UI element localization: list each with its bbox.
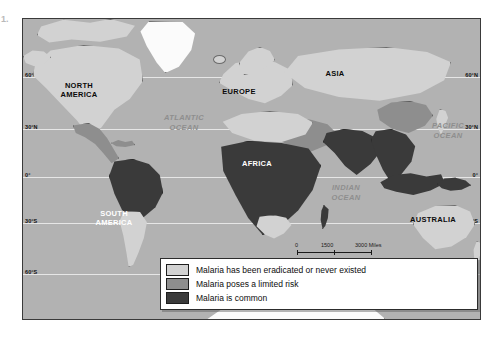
continent-label-asia: ASIA xyxy=(315,69,355,78)
legend-label-common: Malaria is common xyxy=(196,293,267,303)
lat-label-60s-left: 60°S xyxy=(25,269,37,275)
scale-tick-start xyxy=(297,250,298,255)
scale-miles-tick-3000: 3000 Miles xyxy=(355,242,382,248)
ocean-label-pacific: PACIFIC OCEAN xyxy=(419,121,477,141)
legend-swatch-limited-risk xyxy=(166,278,189,290)
figure-container: 1. 60°N 30°N 0° 30°S 60°S 60°N 30°N 0° 3… xyxy=(0,0,501,344)
landmass-iceland xyxy=(213,55,226,64)
ocean-label-indian-line2: OCEAN xyxy=(319,193,373,203)
legend-item-limited-risk: Malaria poses a limited risk xyxy=(166,277,472,291)
continent-label-north-america: NORTH AMERICA xyxy=(41,81,117,99)
scale-tick-end xyxy=(371,250,372,255)
scale-miles-tick-0: 0 xyxy=(295,242,298,248)
continent-label-south-america: SOUTH AMERICA xyxy=(81,209,147,227)
continent-label-australia: AUSTRALIA xyxy=(401,215,465,224)
legend-swatch-eradicated xyxy=(166,264,189,276)
continent-label-south-america-line1: SOUTH xyxy=(81,209,147,218)
continent-label-north-america-line1: NORTH xyxy=(41,81,117,90)
continent-label-south-america-line2: AMERICA xyxy=(81,218,147,227)
continent-label-africa: AFRICA xyxy=(231,159,283,168)
legend-label-eradicated: Malaria has been eradicated or never exi… xyxy=(196,265,366,275)
scale-tick-mid xyxy=(334,250,335,255)
scale-bar-miles-labels: 0 1500 3000 Miles xyxy=(291,241,391,252)
lat-label-0-left: 0° xyxy=(25,172,30,178)
scale-miles-tick-1500: 1500 xyxy=(321,242,333,248)
lat-label-60n-right: 60°N xyxy=(465,72,478,78)
map-legend: Malaria has been eradicated or never exi… xyxy=(160,258,478,310)
ocean-label-atlantic: ATLANTIC OCEAN xyxy=(151,113,217,133)
ocean-label-pacific-line1: PACIFIC xyxy=(419,121,477,131)
lat-label-30s-left: 30°S xyxy=(25,218,37,224)
lat-label-30n-left: 30°N xyxy=(25,124,38,130)
continent-label-europe: EUROPE xyxy=(213,87,265,96)
legend-label-limited-risk: Malaria poses a limited risk xyxy=(196,279,299,289)
figure-number: 1. xyxy=(1,14,9,24)
continent-label-north-america-line2: AMERICA xyxy=(41,90,117,99)
ocean-label-pacific-line2: OCEAN xyxy=(419,131,477,141)
legend-item-eradicated: Malaria has been eradicated or never exi… xyxy=(166,263,472,277)
lat-label-0-right: 0° xyxy=(473,172,478,178)
ocean-label-atlantic-line2: OCEAN xyxy=(151,123,217,133)
ocean-label-atlantic-line1: ATLANTIC xyxy=(151,113,217,123)
legend-item-common: Malaria is common xyxy=(166,291,472,305)
ocean-label-indian-line1: INDIAN xyxy=(319,183,373,193)
ocean-label-indian: INDIAN OCEAN xyxy=(319,183,373,203)
legend-swatch-common xyxy=(166,292,189,304)
